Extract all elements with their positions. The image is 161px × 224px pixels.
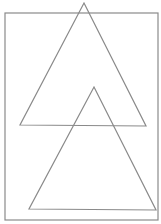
diagram-drawing — [0, 0, 161, 224]
frame-rectangle — [5, 13, 158, 220]
diagram-canvas — [0, 0, 161, 224]
lower-triangle — [29, 87, 156, 210]
